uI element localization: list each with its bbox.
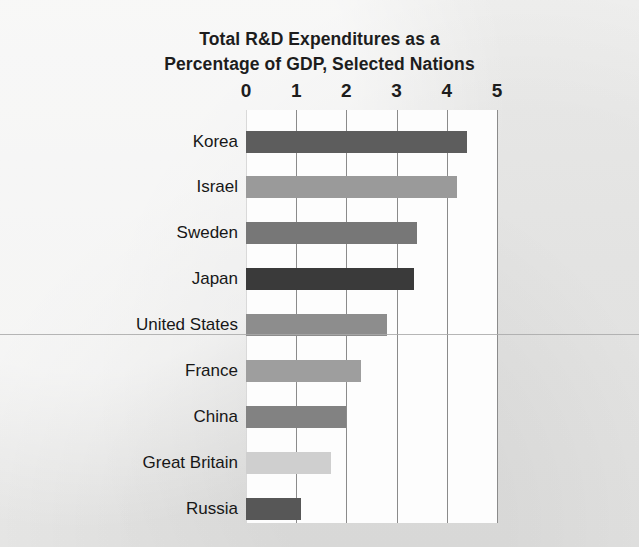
category-label-china: China [0, 406, 238, 428]
category-axis-labels: KoreaIsraelSwedenJapanUnited StatesFranc… [0, 110, 238, 523]
plot-area: 012345 [246, 110, 497, 523]
x-tick-label-5: 5 [477, 80, 517, 102]
gridline-5 [497, 110, 498, 523]
bar-chart-figure: Total R&D Expenditures as a Percentage o… [0, 0, 639, 547]
bar-japan [246, 268, 414, 290]
category-label-great-britain: Great Britain [0, 452, 238, 474]
category-label-israel: Israel [0, 176, 238, 198]
bar-great-britain [246, 452, 331, 474]
category-label-france: France [0, 360, 238, 382]
x-tick-label-2: 2 [326, 80, 366, 102]
category-label-sweden: Sweden [0, 222, 238, 244]
bar-israel [246, 176, 457, 198]
x-tick-label-4: 4 [427, 80, 467, 102]
bar-sweden [246, 222, 417, 244]
chart-title-line-2: Percentage of GDP, Selected Nations [0, 52, 639, 77]
x-tick-label-0: 0 [226, 80, 266, 102]
bar-korea [246, 131, 467, 153]
bar-united-states [246, 314, 387, 336]
x-tick-label-3: 3 [377, 80, 417, 102]
category-label-korea: Korea [0, 131, 238, 153]
gridline-3 [397, 110, 398, 523]
chart-title-line-1: Total R&D Expenditures as a [0, 27, 639, 52]
bar-russia [246, 498, 301, 520]
bar-china [246, 406, 346, 428]
category-label-russia: Russia [0, 498, 238, 520]
bar-france [246, 360, 361, 382]
category-label-united-states: United States [0, 314, 238, 336]
chart-title: Total R&D Expenditures as a Percentage o… [0, 27, 639, 77]
category-label-japan: Japan [0, 268, 238, 290]
gridline-4 [447, 110, 448, 523]
x-tick-label-1: 1 [276, 80, 316, 102]
